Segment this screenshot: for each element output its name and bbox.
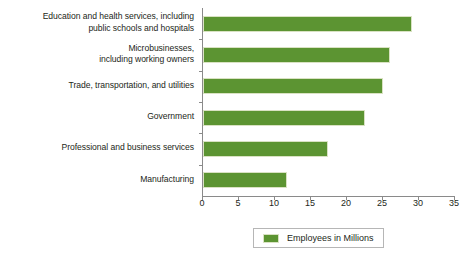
bar bbox=[203, 141, 328, 157]
category-label: Professional and business services bbox=[0, 142, 194, 153]
legend-label: Employees in Millions bbox=[287, 233, 374, 243]
bar-chart: Education and health services, including… bbox=[0, 0, 470, 265]
category-label: Manufacturing bbox=[0, 174, 194, 185]
x-axis-tick-label: 20 bbox=[331, 198, 361, 208]
x-axis-tick-label: 5 bbox=[223, 198, 253, 208]
y-axis-tick bbox=[199, 102, 202, 103]
bar bbox=[203, 110, 365, 126]
bar bbox=[203, 78, 383, 94]
category-label: Microbusinesses, including working owner… bbox=[0, 43, 194, 66]
y-axis-line bbox=[202, 8, 203, 196]
x-axis-tick-label: 10 bbox=[259, 198, 289, 208]
x-axis-tick-labels: 05101520253035 bbox=[202, 198, 462, 212]
x-axis-tick-label: 35 bbox=[439, 198, 469, 208]
bar bbox=[203, 16, 412, 32]
bar bbox=[203, 172, 287, 188]
category-label: Education and health services, including… bbox=[0, 11, 194, 34]
y-axis-tick bbox=[199, 39, 202, 40]
legend-swatch-icon bbox=[263, 234, 279, 243]
plot-area bbox=[202, 8, 454, 196]
x-axis-tick-label: 0 bbox=[187, 198, 217, 208]
category-label: Government bbox=[0, 111, 194, 122]
y-axis-tick bbox=[199, 133, 202, 134]
y-axis-tick bbox=[199, 165, 202, 166]
x-axis-tick-label: 30 bbox=[403, 198, 433, 208]
chart-legend: Employees in Millions bbox=[253, 228, 384, 248]
y-axis-tick bbox=[199, 71, 202, 72]
x-axis-line bbox=[202, 196, 454, 197]
x-axis-tick-label: 15 bbox=[295, 198, 325, 208]
category-label: Trade, transportation, and utilities bbox=[0, 80, 194, 91]
x-axis-tick-label: 25 bbox=[367, 198, 397, 208]
bar bbox=[203, 47, 390, 63]
category-axis-labels: Education and health services, including… bbox=[0, 8, 194, 196]
